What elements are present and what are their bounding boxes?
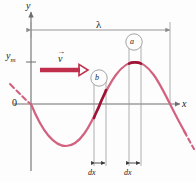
point-a-label: a <box>130 38 134 46</box>
wave-snapshot-figure: y x 0 ym λ → v a b dx dx <box>0 0 196 182</box>
wave-curve-tail <box>184 131 194 149</box>
amplitude-tick-label-subscript: m <box>10 56 15 64</box>
callout-circle-b <box>91 70 107 86</box>
x-axis-label: x <box>182 99 186 109</box>
wavelength-label: λ <box>96 19 101 30</box>
point-b-label: b <box>95 74 99 82</box>
dx-label-left: dx <box>88 169 96 177</box>
amplitude-tick-label: ym <box>6 51 16 64</box>
callout-circle-a <box>126 34 142 50</box>
velocity-label: v <box>58 54 62 64</box>
wave-element-highlight-a <box>129 62 141 63</box>
velocity-arrowhead-icon <box>79 64 88 75</box>
origin-label: 0 <box>12 98 17 108</box>
dx-label-right: dx <box>124 169 132 177</box>
y-axis-label: y <box>26 1 30 11</box>
